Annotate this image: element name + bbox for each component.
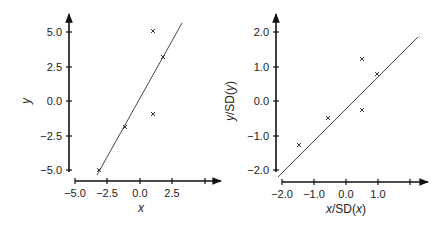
right-y-axis-label: y/SD(y) (223, 81, 237, 122)
left-ytick-label: 5.0 (47, 26, 62, 38)
left-xtick-label: −2.5 (96, 187, 118, 199)
right-ytick-label: −1.0 (247, 130, 269, 142)
right-ytick-label: 2.0 (254, 26, 269, 38)
right-xtick-label: 0.0 (338, 188, 353, 200)
left-xtick-label: −5.0 (64, 187, 86, 199)
right-fit-line (278, 37, 418, 177)
right-ytick-label: −2.0 (247, 164, 269, 176)
right-data-points (297, 57, 379, 147)
right-xtick-label: −1.0 (303, 188, 325, 200)
right-ytick-label: 1.0 (254, 61, 269, 73)
left-xtick-label: 0.0 (132, 187, 147, 199)
left-chart: 5.0 2.5 0.0 −2.5 −5.0 y −5.0 −2.5 0.0 2.… (19, 14, 221, 215)
left-xtick-label: 2.5 (164, 187, 179, 199)
left-data-points (97, 29, 165, 172)
right-chart: 2.0 1.0 0.0 −1.0 −2.0 y/SD(y) −2.0 −1.0 … (223, 14, 428, 216)
left-y-axis-label: y (19, 97, 33, 105)
left-ytick-label: −2.5 (40, 130, 62, 142)
right-x-axis-label: x/SD(x) (325, 202, 366, 216)
right-ytick-label: 0.0 (254, 95, 269, 107)
right-xtick-label: −2.0 (271, 188, 293, 200)
left-ytick-label: 2.5 (47, 61, 62, 73)
left-ytick-label: 0.0 (47, 95, 62, 107)
left-fit-line (97, 23, 182, 175)
right-xtick-label: 1.0 (370, 188, 385, 200)
figure: 5.0 2.5 0.0 −2.5 −5.0 y −5.0 −2.5 0.0 2.… (0, 0, 448, 226)
left-ytick-label: −5.0 (40, 164, 62, 176)
left-x-axis-label: x (137, 201, 145, 215)
